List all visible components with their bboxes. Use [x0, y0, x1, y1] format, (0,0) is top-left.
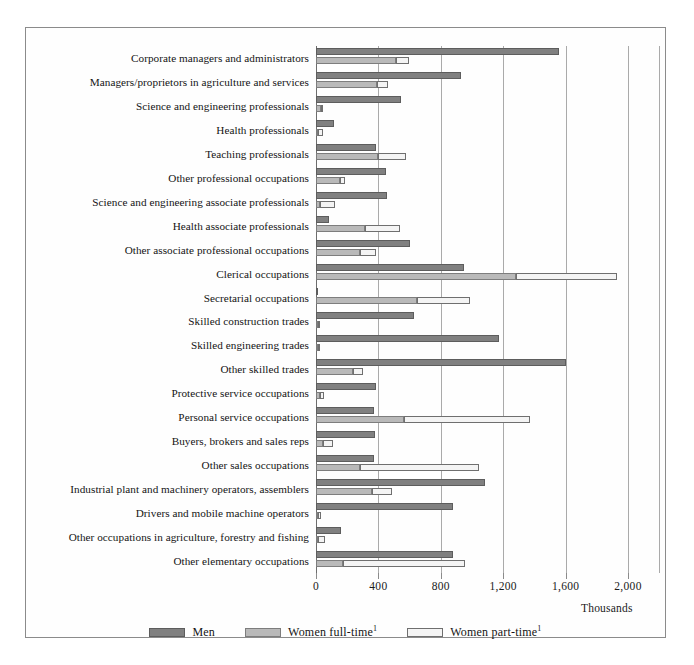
bar-men	[316, 527, 341, 534]
bar-women-full-time	[316, 368, 353, 375]
bar-men	[316, 383, 376, 390]
bar-women-full-time	[316, 560, 343, 567]
tick-mark-2000	[628, 573, 629, 579]
bar-women-part-time	[372, 488, 392, 495]
bar-women-full-time	[316, 273, 516, 280]
category-label: Clerical occupations	[216, 268, 309, 280]
bar-women-full-time	[316, 297, 417, 304]
bar-women-full-time	[316, 249, 360, 256]
tick-label-0: 0	[313, 580, 319, 592]
bar-women-full-time	[316, 440, 323, 447]
plot-area: Corporate managers and administratorsMan…	[316, 46, 628, 573]
bar-women-full-time	[316, 464, 360, 471]
category-label: Other elementary occupations	[173, 555, 309, 567]
bar-women-part-time	[396, 57, 408, 64]
bar-men	[316, 72, 461, 79]
category-label: Health professionals	[216, 124, 309, 136]
category-label: Skilled construction trades	[188, 315, 309, 327]
chart-row: Buyers, brokers and sales reps	[316, 431, 628, 451]
legend-item-men[interactable]: Men	[149, 625, 215, 640]
bar-women-part-time	[321, 105, 323, 112]
tick-mark-0	[316, 573, 317, 579]
chart-row: Teaching professionals	[316, 144, 628, 164]
bar-men	[316, 503, 453, 510]
bar-women-full-time	[316, 153, 378, 160]
category-label: Teaching professionals	[205, 148, 309, 160]
chart-row: Other professional occupations	[316, 168, 628, 188]
chart-row: Drivers and mobile machine operators	[316, 503, 628, 523]
bar-women-part-time	[343, 560, 465, 567]
category-label: Other professional occupations	[168, 172, 309, 184]
bar-men	[316, 144, 376, 151]
bar-men	[316, 551, 453, 558]
bar-men	[316, 264, 464, 271]
bar-women-part-time	[318, 129, 323, 136]
bar-women-part-time	[365, 225, 400, 232]
bar-women-part-time	[320, 201, 336, 208]
chart-row: Skilled engineering trades	[316, 335, 628, 355]
bar-women-full-time	[316, 225, 365, 232]
tick-label-800: 800	[432, 580, 450, 592]
bar-women-part-time	[360, 464, 479, 471]
legend: Men Women full-time1 Women part-time1	[26, 624, 665, 640]
bar-women-part-time	[318, 321, 320, 328]
chart-row: Other occupations in agriculture, forest…	[316, 527, 628, 547]
bar-women-full-time	[316, 488, 372, 495]
chart-row: Managers/proprietors in agriculture and …	[316, 72, 628, 92]
bar-women-part-time	[318, 344, 320, 351]
chart-row: Secretarial occupations	[316, 288, 628, 308]
bar-men	[316, 192, 387, 199]
chart-frame: Corporate managers and administratorsMan…	[25, 27, 666, 638]
tick-label-1600: 1,600	[552, 580, 579, 592]
category-label: Managers/proprietors in agriculture and …	[90, 76, 309, 88]
bar-women-full-time	[316, 81, 377, 88]
bar-women-part-time	[318, 536, 325, 543]
category-label: Secretarial occupations	[204, 292, 309, 304]
tick-mark-1600	[566, 573, 567, 579]
tick-label-2000: 2,000	[614, 580, 641, 592]
category-label: Health associate professionals	[173, 220, 309, 232]
chart-row: Clerical occupations	[316, 264, 628, 284]
legend-item-women-part-time[interactable]: Women part-time1	[407, 624, 541, 640]
chart-row: Industrial plant and machinery operators…	[316, 479, 628, 499]
bar-women-full-time	[316, 57, 396, 64]
bar-women-full-time	[316, 177, 340, 184]
category-label: Other occupations in agriculture, forest…	[69, 531, 309, 543]
category-label: Drivers and mobile machine operators	[136, 507, 309, 519]
tick-mark-800	[441, 573, 442, 579]
bar-women-part-time	[323, 440, 333, 447]
legend-item-women-full-time[interactable]: Women full-time1	[245, 624, 377, 640]
bar-women-part-time	[360, 249, 376, 256]
footnote-marker-women-full-time: 1	[373, 624, 377, 633]
legend-label-men: Men	[192, 625, 215, 640]
bar-men	[316, 120, 334, 127]
tick-label-400: 400	[369, 580, 387, 592]
legend-swatch-men	[149, 628, 185, 637]
bar-men	[316, 96, 401, 103]
legend-label-women-part-time: Women part-time1	[450, 624, 541, 640]
bar-men	[316, 407, 374, 414]
bar-men	[316, 168, 386, 175]
footnote-marker-women-part-time: 1	[537, 624, 541, 633]
chart-row: Personal service occupations	[316, 407, 628, 427]
bar-women-part-time	[516, 273, 617, 280]
bar-men	[316, 216, 329, 223]
chart-row: Other elementary occupations	[316, 551, 628, 571]
bar-men	[316, 312, 414, 319]
category-label: Other associate professional occupations	[125, 244, 309, 256]
tick-mark-1200	[503, 573, 504, 579]
category-label: Industrial plant and machinery operators…	[70, 483, 309, 495]
chart-row: Corporate managers and administrators	[316, 48, 628, 68]
bar-men	[316, 479, 485, 486]
bar-women-part-time	[318, 512, 320, 519]
category-label: Other sales occupations	[202, 459, 309, 471]
bar-men	[316, 288, 318, 295]
chart-row: Other associate professional occupations	[316, 240, 628, 260]
category-label: Science and engineering associate profes…	[92, 196, 309, 208]
bar-women-part-time	[340, 177, 345, 184]
chart-row: Other sales occupations	[316, 455, 628, 475]
category-label: Protective service occupations	[171, 387, 309, 399]
bar-women-part-time	[378, 153, 406, 160]
legend-swatch-women-part-time	[407, 628, 443, 637]
bar-women-part-time	[404, 416, 530, 423]
